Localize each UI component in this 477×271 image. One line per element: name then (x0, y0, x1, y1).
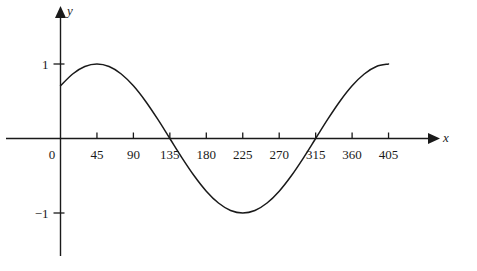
x-tick-label: 135 (160, 147, 180, 162)
y-tick-label: −1 (35, 206, 49, 221)
x-tick-label: 270 (269, 147, 289, 162)
cosine-curve-plot: 4590135180225270315360405 1−1 0 x y (0, 0, 477, 271)
x-tick-label: 225 (233, 147, 253, 162)
graph-figure: 4590135180225270315360405 1−1 0 x y (0, 0, 477, 271)
x-axis-arrow-icon (428, 133, 440, 144)
x-tick-label: 90 (127, 147, 140, 162)
x-tick-label: 405 (379, 147, 399, 162)
x-axis-ticks (97, 133, 389, 139)
x-tick-label: 360 (342, 147, 362, 162)
origin-label: 0 (49, 147, 56, 162)
x-axis-tick-labels: 4590135180225270315360405 (90, 147, 398, 162)
x-axis-label: x (442, 130, 449, 145)
y-tick-label: 1 (42, 57, 49, 72)
x-tick-label: 180 (197, 147, 217, 162)
x-tick-label: 315 (306, 147, 326, 162)
y-axis-label: y (65, 3, 73, 18)
x-tick-label: 45 (90, 147, 103, 162)
y-axis-arrow-icon (55, 6, 66, 18)
